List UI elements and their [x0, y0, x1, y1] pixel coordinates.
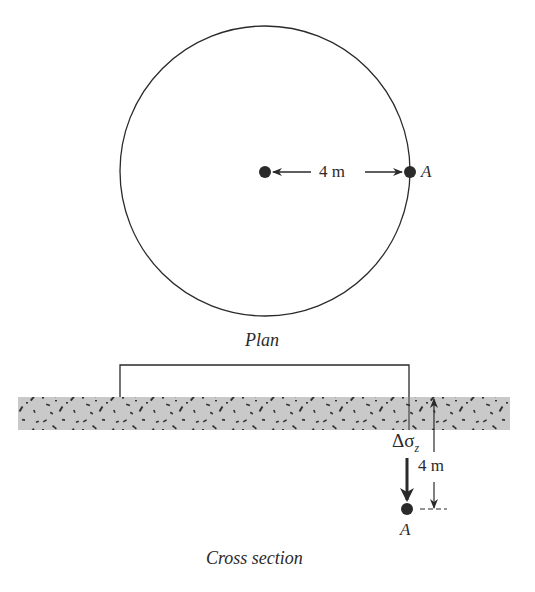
point-a-plan [404, 166, 416, 178]
radius-label: 4 m [319, 162, 345, 182]
stress-subscript: z [414, 441, 419, 455]
depth-label: 4 m [418, 456, 444, 476]
cross-section-caption: Cross section [206, 548, 303, 569]
plan-caption: Plan [245, 330, 279, 351]
point-a-section [401, 503, 413, 515]
center-point [259, 166, 271, 178]
stress-increment-label: Δσz [392, 430, 419, 456]
plan-view [120, 26, 416, 316]
cross-section-view [18, 365, 510, 515]
diagram-canvas [0, 0, 535, 592]
point-a-plan-label: A [421, 162, 431, 182]
foundation-load-outline [120, 365, 409, 397]
stress-delta-symbol: Δσ [392, 430, 414, 451]
soil-layer [18, 397, 510, 430]
point-a-section-label: A [400, 520, 410, 540]
